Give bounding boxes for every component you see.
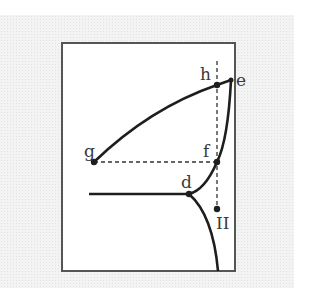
point-f (214, 159, 220, 165)
label-g: g (84, 141, 95, 161)
label-d: d (181, 172, 192, 192)
point-h (214, 82, 220, 88)
phase-diagram: h e g f d II (0, 0, 317, 303)
point-e (229, 78, 234, 83)
label-h: h (200, 64, 211, 84)
label-II: II (216, 213, 229, 233)
point-II (214, 206, 220, 212)
label-e: e (236, 70, 246, 90)
